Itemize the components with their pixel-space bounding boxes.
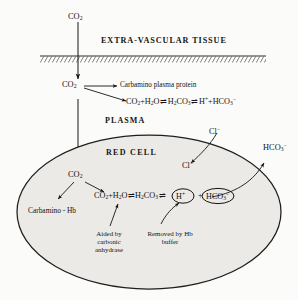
capillary-membrane-icon bbox=[40, 56, 266, 63]
hb-buffer-note: Removed by Hb buffer bbox=[141, 230, 199, 246]
co2-plasma-label: CO2 bbox=[62, 80, 77, 90]
proton-label: H+ bbox=[176, 191, 185, 201]
carbonic-anhydrase-note: Aided by carbonic anhydrase bbox=[84, 230, 134, 254]
carbamino-plasma-protein-label: Carbamino plasma protein bbox=[120, 81, 196, 89]
plasma-hydration-arrow bbox=[84, 88, 126, 101]
plasma-label: PLASMA bbox=[105, 117, 145, 126]
red-cell-label: RED CELL bbox=[106, 149, 157, 158]
co2-transport-diagram: CO2 EXTRA-VASCULAR TISSUE CO2 Carbamino … bbox=[0, 0, 298, 300]
plasma-reaction-equation: CO2+H2O ⇌ H2CO3 ⇌ H++HCO3− bbox=[126, 96, 236, 106]
co2-cell-label: CO2 bbox=[68, 170, 83, 180]
plus-operator: + bbox=[198, 191, 203, 200]
extra-vascular-tissue-label: EXTRA-VASCULAR TISSUE bbox=[101, 36, 227, 45]
carbamino-hb-label: Carbamino - Hb bbox=[28, 207, 76, 215]
bicarbonate-exit-label: HCO3− bbox=[263, 142, 287, 152]
cell-reaction-equation: CO2+H2O ⇌H2CO3 ⇌ bbox=[94, 191, 166, 200]
chloride-plasma-label: Cl− bbox=[209, 126, 220, 136]
bicarbonate-cell-label: HCO3− bbox=[206, 191, 229, 201]
chloride-cell-label: Cl− bbox=[182, 160, 193, 170]
co2-tissue-label: CO2 bbox=[68, 12, 83, 22]
